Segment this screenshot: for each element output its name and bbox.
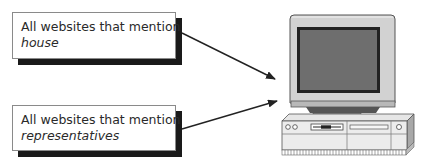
monitor-icon bbox=[290, 15, 395, 118]
cpu-base-icon bbox=[282, 114, 414, 155]
diagram-graphics bbox=[0, 0, 427, 163]
screen bbox=[300, 30, 377, 90]
arrow-representatives-to-computer bbox=[182, 101, 277, 129]
arrow-house-to-computer bbox=[182, 33, 275, 79]
computer-icon bbox=[282, 15, 414, 155]
power-button-icon bbox=[286, 125, 291, 130]
